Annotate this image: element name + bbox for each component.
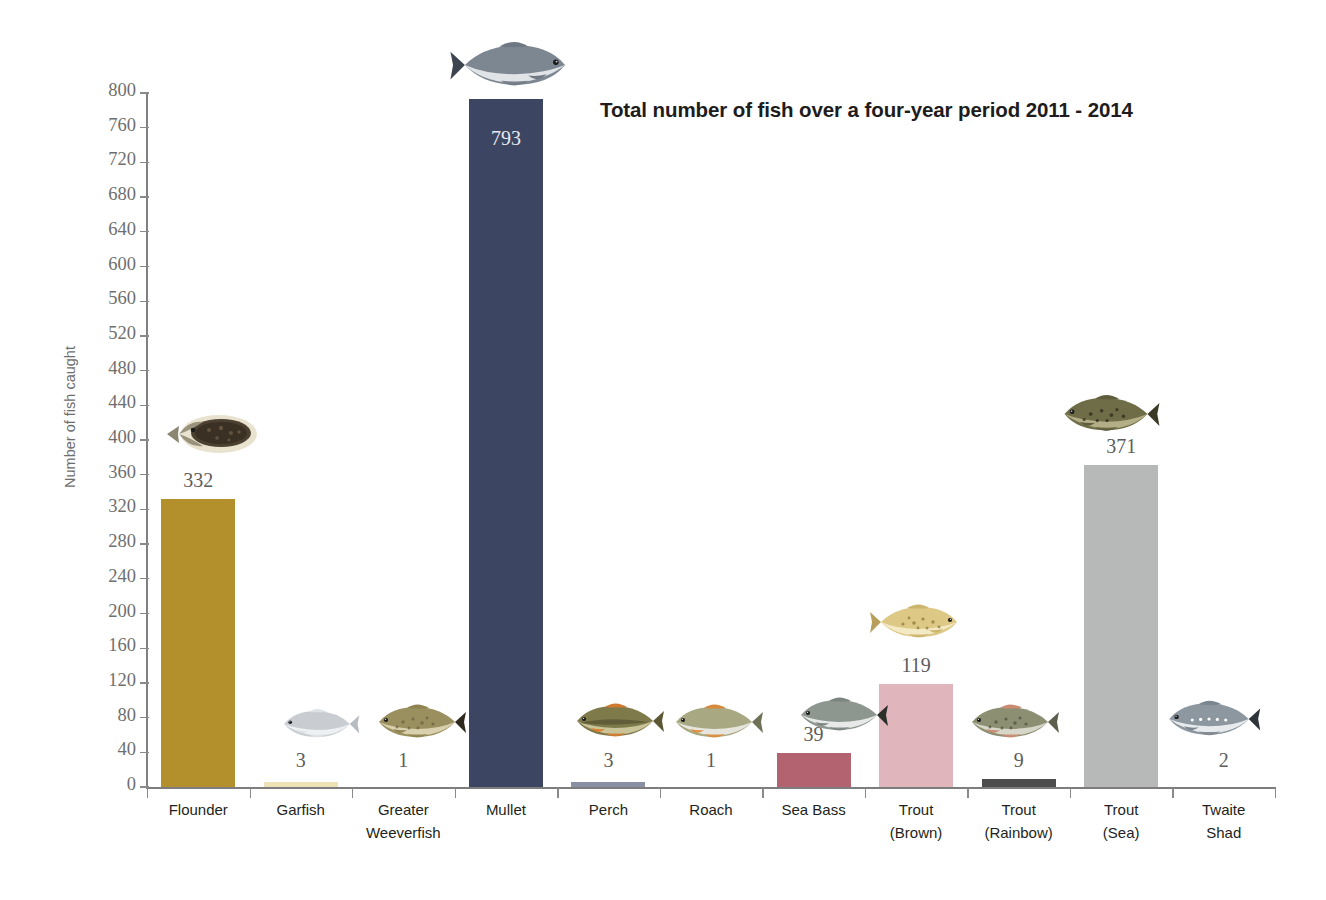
x-axis-label-line: Trout (961, 798, 1076, 821)
x-axis-label-garfish: Garfish (244, 798, 359, 821)
flounder-fish-icon (163, 408, 263, 458)
x-axis-label-mullet: Mullet (449, 798, 564, 821)
y-tick-label: 280 (90, 531, 136, 552)
x-axis-label-line: Roach (654, 798, 769, 821)
y-tick-label: 720 (90, 149, 136, 170)
y-tick-mark (140, 196, 149, 197)
bar-trout-rainbow[interactable] (982, 779, 1056, 787)
y-axis-title: Number of fish caught (62, 297, 78, 537)
bar-value-label: 2 (1169, 749, 1279, 772)
x-axis-label-line: Shad (1166, 821, 1281, 844)
x-tick-mark (865, 788, 866, 798)
y-tick-label: 560 (90, 288, 136, 309)
x-tick-mark (1070, 788, 1071, 798)
x-tick-mark (660, 788, 661, 798)
bar-value-label: 3 (246, 749, 356, 772)
y-tick-label: 480 (90, 358, 136, 379)
bar-mullet[interactable] (469, 99, 543, 787)
y-tick-mark (140, 613, 149, 614)
y-tick-label: 360 (90, 462, 136, 483)
y-tick-mark (140, 162, 149, 163)
y-tick-mark (140, 370, 149, 371)
x-tick-mark (455, 788, 456, 798)
mullet-fish-icon (448, 36, 582, 94)
y-tick-label: 40 (90, 739, 136, 760)
greater-weeverfish-fish-icon (363, 700, 471, 744)
x-axis-label-line: Mullet (449, 798, 564, 821)
x-tick-mark (557, 788, 558, 798)
bar-garfish[interactable] (264, 782, 338, 787)
x-axis-label-trout-brown: Trout(Brown) (859, 798, 974, 844)
bar-trout-sea[interactable] (1084, 465, 1158, 787)
y-tick-mark (140, 717, 149, 718)
y-tick-mark (140, 301, 149, 302)
y-tick-mark (140, 266, 149, 267)
x-tick-mark (967, 788, 968, 798)
bar-value-label: 793 (451, 127, 561, 150)
y-tick-mark (140, 231, 149, 232)
x-axis-line (146, 787, 1276, 789)
x-axis-label-line: Weeverfish (346, 821, 461, 844)
x-tick-mark (352, 788, 353, 798)
y-tick-label: 160 (90, 635, 136, 656)
x-axis-label-line: (Brown) (859, 821, 974, 844)
y-tick-label: 320 (90, 496, 136, 517)
x-axis-label-line: Trout (1064, 798, 1179, 821)
bar-value-label: 1 (656, 749, 766, 772)
y-tick-label: 240 (90, 566, 136, 587)
bar-value-label: 9 (964, 749, 1074, 772)
x-tick-mark (762, 788, 763, 798)
bar-value-label: 1 (348, 749, 458, 772)
garfish-fish-icon (268, 705, 366, 743)
x-tick-mark (1172, 788, 1173, 798)
y-tick-mark (140, 405, 149, 406)
y-tick-label: 0 (90, 774, 136, 795)
y-tick-mark (140, 648, 149, 649)
x-axis-label-line: Trout (859, 798, 974, 821)
x-axis-label-sea-bass: Sea Bass (756, 798, 871, 821)
y-tick-label: 800 (90, 80, 136, 101)
bar-value-label: 371 (1066, 435, 1176, 458)
perch-fish-icon (565, 697, 665, 745)
x-axis-label-line: Sea Bass (756, 798, 871, 821)
trout-sea-fish-icon (1033, 390, 1179, 438)
y-tick-mark (140, 509, 149, 510)
x-axis-label-line: Perch (551, 798, 666, 821)
y-tick-mark (140, 439, 149, 440)
trout-brown-fish-icon (866, 600, 972, 644)
y-tick-label: 200 (90, 601, 136, 622)
y-tick-label: 80 (90, 705, 136, 726)
x-tick-mark (1275, 788, 1276, 798)
x-axis-label-line: (Sea) (1064, 821, 1179, 844)
chart-title: Total number of fish over a four-year pe… (600, 98, 1260, 122)
x-tick-mark (147, 788, 148, 798)
x-axis-label-perch: Perch (551, 798, 666, 821)
x-axis-label-line: Garfish (244, 798, 359, 821)
y-tick-label: 440 (90, 392, 136, 413)
x-tick-mark (250, 788, 251, 798)
twaite-shad-fish-icon (1150, 696, 1268, 742)
x-axis-label-flounder: Flounder (141, 798, 256, 821)
y-tick-label: 600 (90, 254, 136, 275)
bar-value-label: 119 (861, 654, 971, 677)
x-axis-label-line: Flounder (141, 798, 256, 821)
bar-perch[interactable] (571, 782, 645, 787)
sea-bass-fish-icon (783, 693, 895, 737)
x-axis-label-trout-sea: Trout(Sea) (1064, 798, 1179, 844)
y-tick-label: 640 (90, 219, 136, 240)
y-tick-label: 120 (90, 670, 136, 691)
x-axis-label-line: Greater (346, 798, 461, 821)
y-tick-label: 400 (90, 427, 136, 448)
y-tick-mark (140, 543, 149, 544)
y-tick-label: 760 (90, 115, 136, 136)
bar-chart: Total number of fish over a four-year pe… (0, 0, 1326, 900)
bar-flounder[interactable] (161, 499, 235, 787)
y-tick-mark (140, 682, 149, 683)
bar-value-label: 3 (553, 749, 663, 772)
roach-fish-icon (660, 700, 768, 744)
bar-sea-bass[interactable] (777, 753, 851, 787)
y-tick-mark (140, 578, 149, 579)
y-tick-mark (140, 127, 149, 128)
y-tick-mark (140, 92, 149, 93)
y-tick-label: 680 (90, 184, 136, 205)
